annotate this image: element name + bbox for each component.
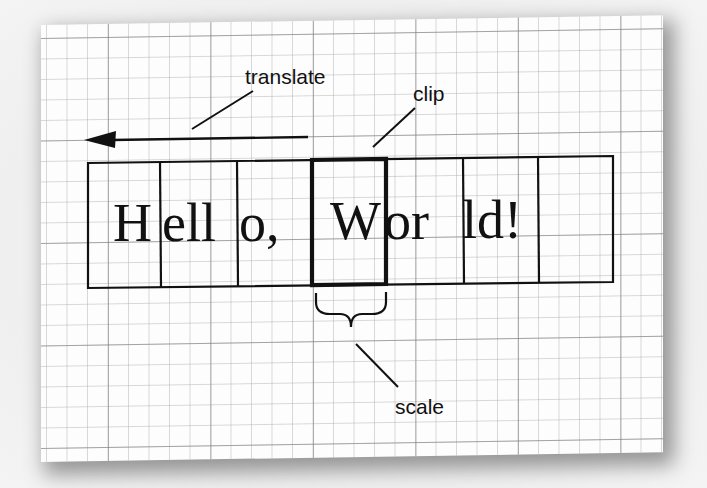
cell-divider <box>237 161 238 286</box>
translate-leader-line <box>192 91 253 129</box>
cell-0-text: H <box>113 196 152 250</box>
cell-divider <box>160 162 161 287</box>
translate-label: translate <box>245 66 326 87</box>
cell-2-text: o, <box>239 196 280 250</box>
scale-label: scale <box>395 396 444 417</box>
scale-leader-line <box>356 344 398 387</box>
translate-arrow-icon <box>84 131 308 148</box>
curly-brace-icon <box>316 292 386 327</box>
cell-divider <box>538 157 539 282</box>
cell-1-text: ell <box>162 196 216 250</box>
clip-leader-line <box>373 108 415 147</box>
cell-4-text: or <box>384 194 429 248</box>
clip-label: clip <box>413 83 445 104</box>
diagram-canvas: H ell o, W or ld! translate clip scale <box>0 0 707 488</box>
cell-5-text: ld! <box>462 193 522 247</box>
cell-3-text: W <box>330 194 381 248</box>
